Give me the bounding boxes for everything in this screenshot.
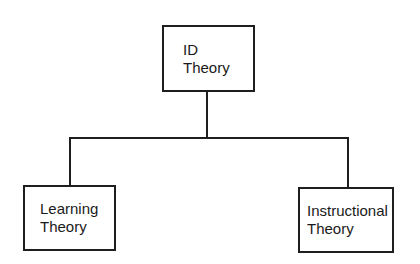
connector-vertical-left	[69, 137, 71, 186]
node-instructional-theory: Instructional Theory	[298, 187, 394, 253]
node-label: ID Theory	[183, 41, 230, 77]
connector-vertical-right	[347, 137, 349, 188]
node-label: Instructional Theory	[307, 202, 388, 238]
connector-vertical-root	[206, 91, 208, 138]
node-learning-theory: Learning Theory	[23, 185, 116, 251]
node-id-theory: ID Theory	[162, 25, 255, 92]
connector-horizontal	[69, 137, 349, 139]
node-label: Learning Theory	[40, 200, 98, 236]
